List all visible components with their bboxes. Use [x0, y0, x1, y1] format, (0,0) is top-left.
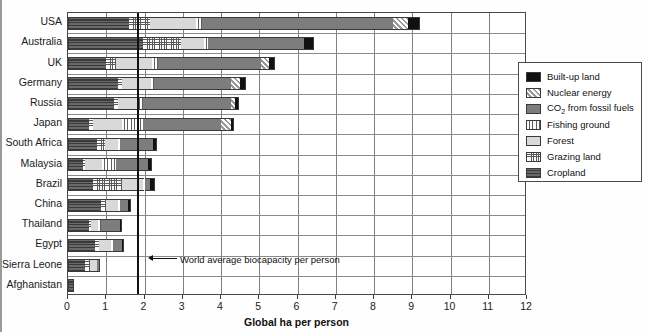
x-tick-2 [144, 295, 145, 299]
segment-co2 [158, 57, 261, 70]
segment-co2 [101, 219, 121, 232]
x-tick-label-4: 4 [217, 300, 223, 312]
segment-co2 [143, 118, 221, 131]
legend-swatch-forest [526, 136, 541, 146]
segment-cropland [68, 199, 101, 212]
segment-grazing [73, 279, 74, 292]
legend-label-co2: CO2 from fossil fuels [547, 102, 634, 115]
legend-swatch-nuclear [526, 88, 541, 98]
segment-cropland [68, 259, 85, 272]
segment-builtup [148, 158, 152, 171]
category-label-brazil: Brazil [2, 178, 62, 189]
category-label-sierra-leone: Sierra Leone [2, 259, 62, 270]
x-tick-8 [373, 295, 374, 299]
category-label-afghanistan: Afghanistan [2, 279, 62, 290]
x-tick-0 [67, 295, 68, 299]
segment-forest [118, 97, 137, 110]
x-tick-9 [411, 295, 412, 299]
segment-cropland [68, 219, 89, 232]
category-label-russia: Russia [2, 97, 62, 108]
segment-cropland [68, 158, 83, 171]
legend-swatch-grazing [526, 152, 541, 162]
segment-co2 [120, 199, 128, 212]
legend-swatch-co2 [526, 104, 541, 114]
segment-builtup [153, 138, 158, 151]
segment-builtup [150, 178, 155, 191]
segment-nuclear [231, 77, 241, 90]
legend-item-builtup[interactable]: Built-up land [526, 69, 635, 84]
segment-builtup [304, 37, 314, 50]
category-label-uk: UK [2, 57, 62, 68]
category-label-australia: Australia [2, 36, 62, 47]
x-tick-label-3: 3 [179, 300, 185, 312]
legend-item-cropland[interactable]: Cropland [526, 165, 635, 180]
legend-swatch-builtup [526, 72, 541, 82]
x-tick-label-5: 5 [255, 300, 261, 312]
segment-cropland [68, 37, 143, 50]
category-label-thailand: Thailand [2, 218, 62, 229]
legend-item-co2[interactable]: CO2 from fossil fuels [526, 101, 635, 116]
segment-grazing [93, 178, 122, 191]
legend-box: Built-up landNuclear energyCO2 from foss… [518, 62, 642, 182]
x-tick-label-0: 0 [64, 300, 70, 312]
segment-co2 [116, 158, 149, 171]
x-tick-4 [220, 295, 221, 299]
category-label-usa: USA [2, 16, 62, 27]
x-tick-1 [105, 295, 106, 299]
x-tick-label-12: 12 [520, 300, 532, 312]
category-label-egypt: Egypt [2, 238, 62, 249]
category-label-malaysia: Malaysia [2, 158, 62, 169]
x-tick-label-11: 11 [482, 300, 493, 312]
x-tick-6 [297, 295, 298, 299]
x-tick-5 [258, 295, 259, 299]
segment-fishing [122, 118, 143, 131]
segment-co2 [113, 239, 123, 252]
world-average-line [137, 13, 139, 294]
segment-co2 [143, 97, 231, 110]
category-label-germany: Germany [2, 77, 62, 88]
category-label-japan: Japan [2, 117, 62, 128]
legend-swatch-cropland [526, 168, 541, 178]
segment-cropland [68, 97, 114, 110]
segment-grazing [143, 37, 181, 50]
legend-item-forest[interactable]: Forest [526, 133, 635, 148]
legend-item-fishing[interactable]: Fishing ground [526, 117, 635, 132]
segment-forest [122, 178, 143, 191]
segment-cropland [68, 138, 97, 151]
segment-grazing [97, 138, 105, 151]
x-tick-11 [488, 295, 489, 299]
segment-forest [85, 158, 102, 171]
segment-builtup [120, 219, 122, 232]
segment-co2 [202, 17, 393, 30]
segment-builtup [269, 57, 275, 70]
segment-co2 [154, 77, 231, 90]
segment-builtup [128, 199, 131, 212]
annotation-label: World average biocapacity per person [180, 254, 340, 265]
x-tick-label-8: 8 [370, 300, 376, 312]
legend-label-fishing: Fishing ground [547, 119, 610, 130]
segment-forest [181, 37, 204, 50]
x-tick-7 [335, 295, 336, 299]
segment-nuclear [393, 17, 408, 30]
segment-forest [99, 239, 110, 252]
x-tick-12 [526, 295, 527, 299]
segment-cropland [68, 77, 118, 90]
segment-fishing [102, 158, 115, 171]
x-axis-title: Global ha per person [67, 316, 526, 328]
x-tick-label-9: 9 [408, 300, 414, 312]
segment-co2 [208, 37, 304, 50]
legend-item-grazing[interactable]: Grazing land [526, 149, 635, 164]
category-label-china: China [2, 198, 62, 209]
segment-cropland [68, 178, 93, 191]
legend-label-builtup: Built-up land [547, 71, 600, 82]
segment-forest [105, 138, 118, 151]
legend-item-nuclear[interactable]: Nuclear energy [526, 85, 635, 100]
x-tick-label-6: 6 [294, 300, 300, 312]
segment-cropland [68, 57, 106, 70]
segment-forest [150, 17, 196, 30]
segment-builtup [122, 239, 124, 252]
category-label-south-africa: South Africa [2, 137, 62, 148]
world-average-annotation: World average biocapacity per person [148, 253, 340, 265]
legend-swatch-fishing [526, 120, 541, 130]
legend-label-cropland: Cropland [547, 167, 586, 178]
